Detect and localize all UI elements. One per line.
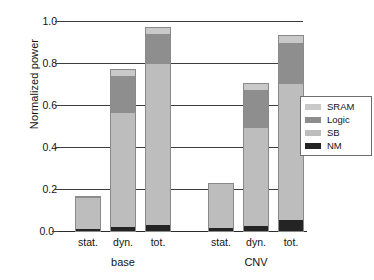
- x-group-label-base: base: [83, 256, 163, 268]
- bar-segment-sram: [278, 35, 304, 43]
- gridline-0-8: 0.8: [62, 63, 303, 64]
- legend: SRAMLogicSBNM: [300, 96, 372, 156]
- bar-segment-logic: [75, 197, 101, 199]
- y-axis-title: Normalized power: [28, 4, 40, 164]
- legend-label: SRAM: [327, 102, 354, 112]
- bar-segment-logic: [110, 76, 136, 114]
- gridline-1-0: 1.0: [62, 21, 303, 22]
- bar-cnv-stat: [208, 183, 234, 232]
- bar-base-tot: [145, 27, 171, 232]
- y-tick-mark: [55, 105, 62, 106]
- bar-segment-sb: [243, 128, 269, 226]
- legend-label: NM: [327, 141, 342, 151]
- legend-label: Logic: [327, 115, 350, 125]
- legend-item-sram: SRAM: [305, 100, 368, 113]
- bar-segment-logic: [278, 43, 304, 84]
- x-tick-label: tot.: [135, 236, 181, 248]
- bar-segment-sb: [75, 198, 101, 229]
- bar-segment-sram: [243, 83, 269, 90]
- bar-segment-nm: [75, 229, 101, 232]
- legend-label: SB: [327, 128, 340, 138]
- bar-cnv-dyn: [243, 83, 269, 232]
- bar-segment-sb: [110, 113, 136, 227]
- legend-item-nm: NM: [305, 139, 368, 152]
- bar-segment-nm: [243, 226, 269, 232]
- x-group-label-cnv: CNV: [216, 256, 296, 268]
- bar-segment-sb: [145, 64, 171, 225]
- bar-segment-sb: [208, 183, 234, 228]
- x-tick-label: tot.: [268, 236, 314, 248]
- bar-segment-logic: [243, 90, 269, 128]
- legend-swatch-logic: [305, 117, 321, 123]
- bar-base-stat: [75, 196, 101, 232]
- bar-segment-nm: [145, 225, 171, 232]
- legend-swatch-nm: [305, 143, 321, 149]
- bar-segment-nm: [278, 220, 304, 232]
- plot-area: 1.00.80.60.40.20.0: [62, 22, 303, 232]
- y-tick-mark: [55, 63, 62, 64]
- chart-figure: Normalized power 1.00.80.60.40.20.0 stat…: [0, 0, 374, 280]
- bar-segment-sram: [110, 69, 136, 75]
- y-tick-mark: [55, 189, 62, 190]
- legend-item-sb: SB: [305, 126, 368, 139]
- legend-swatch-sb: [305, 130, 321, 136]
- y-tick-mark: [52, 231, 59, 232]
- y-tick-mark: [55, 147, 62, 148]
- legend-swatch-sram: [305, 104, 321, 110]
- bar-segment-sram: [145, 27, 171, 33]
- bar-segment-nm: [208, 228, 234, 232]
- y-tick-mark: [55, 21, 62, 22]
- bar-segment-logic: [145, 34, 171, 64]
- bar-base-dyn: [110, 69, 136, 232]
- bar-segment-nm: [110, 227, 136, 232]
- legend-item-logic: Logic: [305, 113, 368, 126]
